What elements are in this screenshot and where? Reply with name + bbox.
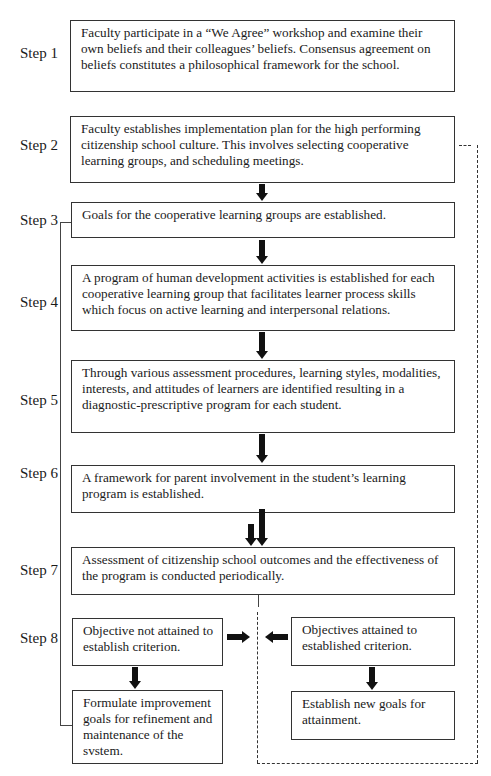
step-5-label: Step 5 [20,391,58,409]
feedback-bracket-top [60,222,71,223]
step-5-box: Through various assessment procedures, l… [71,360,455,433]
objectives-attained-text: Objectives attained to established crite… [302,622,417,653]
step-1-label: Step 1 [20,44,58,62]
feedback-bracket-bottom [60,725,72,726]
step-4-text: A program of human development activitie… [82,270,435,317]
step-2-text: Faculty establishes implementation plan … [81,121,421,168]
dashed-loop-middle [257,612,258,763]
step-6-label: Step 6 [20,464,58,482]
step-3-label: Step 3 [20,211,58,229]
dashed-loop-top [459,145,471,146]
objective-not-attained-box: Objective not attained to establish crit… [72,618,223,666]
step-7-box: Assessment of citizenship school outcome… [71,547,455,595]
step-3-text: Goals for the cooperative learning group… [82,207,386,222]
step-1-box: Faculty participate in a “We Agree” work… [70,20,455,92]
step-4-label: Step 4 [20,293,58,311]
objective-not-attained-text: Objective not attained to establish crit… [83,623,213,654]
step-6-text: A framework for parent involvement in th… [82,470,406,501]
step-7-label: Step 7 [20,561,58,579]
objectives-attained-box: Objectives attained to established crite… [291,617,455,666]
new-goals-text: Establish new goals for attainment. [302,696,425,727]
dashed-loop-right [477,145,478,763]
step-7-connector [258,595,259,607]
step-3-box: Goals for the cooperative learning group… [71,202,455,238]
step-8-label: Step 8 [20,629,58,647]
improvement-goals-box: Formulate improvement goals for refineme… [72,690,223,764]
dashed-loop-bottom [257,763,478,764]
step-2-box: Faculty establishes implementation plan … [70,116,455,183]
new-goals-box: Establish new goals for attainment. [291,691,455,740]
step-4-box: A program of human development activitie… [71,265,455,331]
step-1-text: Faculty participate in a “We Agree” work… [81,25,430,72]
step-7-text: Assessment of citizenship school outcome… [82,552,438,583]
feedback-bracket-vertical [60,222,61,726]
improvement-goals-text: Formulate improvement goals for refineme… [83,695,212,758]
step-5-text: Through various assessment procedures, l… [82,365,441,412]
step-6-box: A framework for parent involvement in th… [71,465,455,513]
step-2-label: Step 2 [20,136,58,154]
